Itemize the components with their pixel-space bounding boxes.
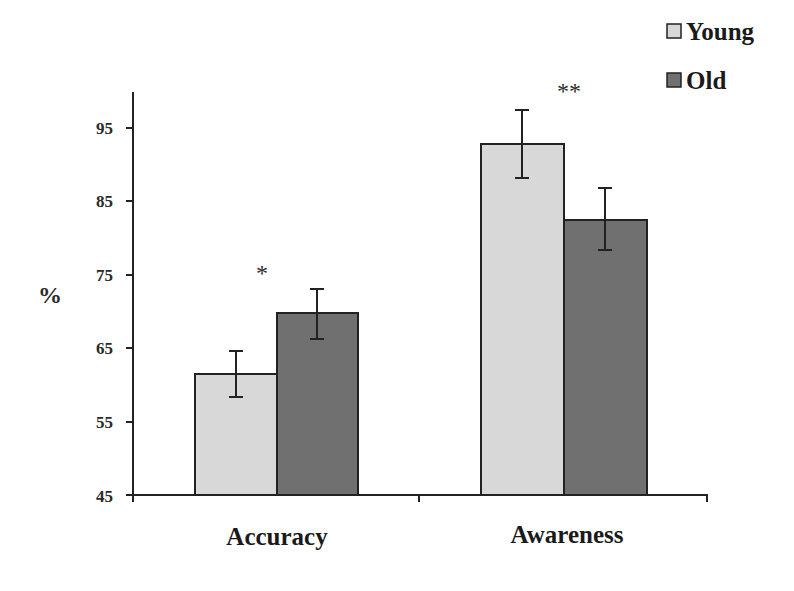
bar-awareness-old bbox=[564, 220, 647, 495]
legend: Young Old bbox=[667, 18, 755, 94]
bar-accuracy-old bbox=[277, 313, 358, 495]
bar-group-accuracy: * bbox=[195, 260, 358, 495]
y-axis-label: % bbox=[38, 282, 62, 308]
y-tick-label: 65 bbox=[96, 339, 113, 358]
significance-marker-awareness: ** bbox=[557, 78, 581, 104]
y-tick-label: 85 bbox=[96, 192, 113, 211]
x-category-label-accuracy: Accuracy bbox=[226, 523, 328, 550]
y-tick-label: 45 bbox=[96, 487, 113, 506]
bar-group-awareness: ** bbox=[481, 78, 647, 495]
bar-chart: 95 85 75 65 55 45 % * bbox=[0, 0, 794, 591]
significance-marker-accuracy: * bbox=[256, 260, 268, 286]
legend-swatch-young bbox=[667, 24, 681, 38]
x-category-label-awareness: Awareness bbox=[511, 521, 624, 548]
y-tick-label: 75 bbox=[96, 266, 113, 285]
legend-label-old: Old bbox=[686, 67, 726, 94]
legend-label-young: Young bbox=[686, 18, 755, 45]
y-ticks: 95 85 75 65 55 45 bbox=[96, 119, 133, 506]
bar-awareness-young bbox=[481, 144, 564, 495]
y-tick-label: 55 bbox=[96, 413, 113, 432]
legend-swatch-old bbox=[667, 73, 681, 87]
y-tick-label: 95 bbox=[96, 119, 113, 138]
